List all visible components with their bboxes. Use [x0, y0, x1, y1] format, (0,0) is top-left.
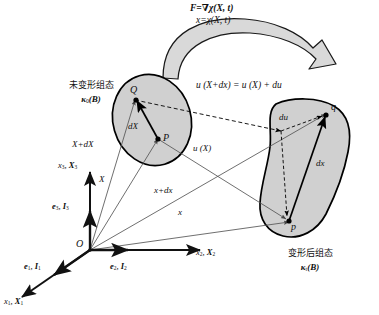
basis-arrow-1 [54, 250, 90, 275]
coordinate-frame [22, 172, 200, 297]
kappa-t-arg: (B) [307, 262, 319, 272]
point-label-P: P [163, 132, 169, 144]
label-x: x [178, 207, 182, 217]
axis-3-material-sub: 3 [74, 164, 77, 170]
current-configuration-symbol: κt(B) [258, 262, 362, 273]
point-P-dot [155, 136, 160, 141]
point-q-dot [323, 112, 328, 117]
point-label-Q: Q [130, 84, 137, 96]
basis-label-3: e3, I3 [52, 202, 69, 212]
origin-dot [88, 248, 92, 252]
transformation-arrow [163, 19, 336, 79]
current-configuration-label: 变形后组态 [258, 248, 362, 258]
axis-label-1: x1, X1 [4, 297, 23, 307]
vector-X [90, 139, 158, 250]
current-body [260, 99, 350, 237]
kappa-0-arg: (B) [89, 94, 101, 104]
label-X-plus-dX: X+dX [72, 139, 94, 149]
point-label-q: q [331, 101, 336, 113]
reference-configuration-symbol: κ0(B) [48, 94, 134, 105]
point-Q-dot [133, 97, 138, 102]
basis-label-2: e2, I2 [110, 262, 127, 272]
basis-label-1: e1, I1 [24, 262, 41, 272]
reference-configuration-label: 未变形组态 [48, 80, 134, 90]
basis-2-material-sub: 2 [124, 265, 127, 271]
vector-x [90, 222, 289, 250]
displacement-equation: u (X+dx) = u (X) + du [196, 80, 282, 91]
basis-1-material-sub: 1 [38, 265, 41, 271]
label-du: du [279, 112, 288, 122]
figure-canvas: F=∇χ(X, t) x=χ(X, t) 未变形组态 κ0(B) 变形后组态 κ… [0, 0, 379, 315]
origin-label: O [76, 238, 83, 250]
label-X: X [99, 174, 105, 184]
basis-3-material-sub: 3 [66, 205, 69, 211]
label-dx: dx [316, 158, 325, 168]
axis-label-3: x3, X3 [58, 161, 77, 171]
axis-1-material-sub: 1 [20, 300, 23, 306]
label-dX: dX [128, 121, 138, 131]
label-x-plus-dx: x+dx [154, 185, 173, 195]
label-u-of-X: u (X) [193, 143, 211, 153]
axis-2-material-sub: 2 [212, 251, 215, 257]
axis-label-2: x2, X2 [196, 248, 215, 258]
equation-F: F=∇χ(X, t) [190, 3, 233, 14]
point-label-p: p [291, 221, 296, 233]
equation-x: x=χ(X, t) [196, 15, 230, 26]
